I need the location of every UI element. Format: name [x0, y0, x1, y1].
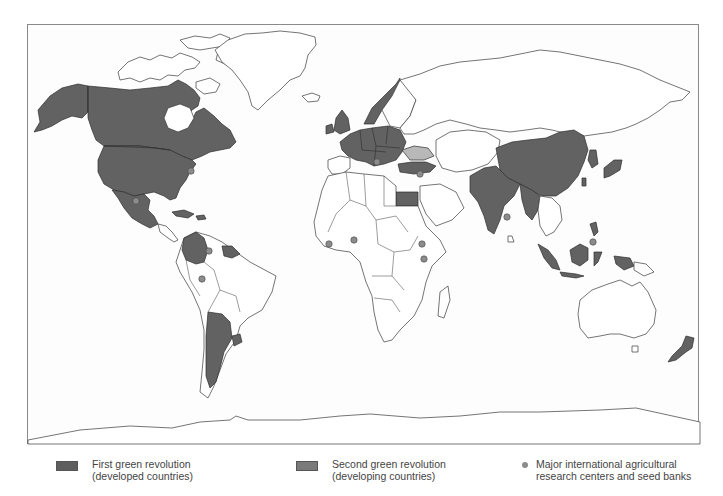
research-center-ethiopia: [419, 241, 425, 247]
legend-label-line1: Second green revolution: [332, 458, 446, 470]
research-center-usa: [188, 168, 194, 174]
ireland: [326, 124, 334, 134]
research-center-liberia: [326, 241, 332, 247]
russia: [400, 50, 690, 136]
sumatra: [538, 244, 560, 270]
legend-item-research-centers: Major international agricultural researc…: [522, 458, 691, 482]
research-center-mexico: [133, 198, 139, 204]
legend-label-line1: First green revolution: [92, 458, 193, 470]
antarctica: [28, 408, 700, 444]
middle-east-egypt: [396, 192, 418, 206]
united-kingdom: [334, 110, 350, 134]
legend-label: Major international agricultural researc…: [536, 458, 691, 482]
legend-label-line2: (developing countries): [332, 470, 446, 482]
new-zealand: [668, 336, 694, 362]
cuba: [172, 210, 194, 218]
iberia: [328, 156, 350, 174]
java: [560, 272, 584, 278]
legend-label-line2: research centers and seed banks: [536, 470, 691, 482]
legend-label-line2: (developed countries): [92, 470, 193, 482]
new-guinea-west: [614, 256, 634, 270]
world-map: [0, 0, 723, 496]
research-center-dot-icon: [522, 462, 528, 468]
iceland: [302, 93, 320, 102]
madagascar: [438, 286, 450, 318]
central-america: [158, 224, 178, 242]
ukraine: [402, 146, 434, 160]
tasmania: [632, 346, 638, 352]
arabia: [420, 184, 464, 226]
research-center-philippines: [590, 239, 596, 245]
greenland: [215, 31, 316, 110]
alaska: [34, 84, 88, 132]
research-center-peru: [199, 276, 205, 282]
new-guinea-east: [634, 262, 654, 276]
mexico: [112, 190, 158, 228]
sulawesi: [594, 252, 602, 266]
research-center-italy: [374, 159, 380, 165]
legend: First green revolution (developed countr…: [0, 458, 723, 496]
uruguay: [232, 334, 242, 346]
central-asia: [436, 130, 500, 172]
legend-item-second-revolution: Second green revolution (developing coun…: [296, 458, 446, 482]
research-center-nigeria: [351, 237, 357, 243]
legend-label-line1: Major international agricultural: [536, 458, 691, 470]
second-revolution-swatch: [296, 461, 318, 471]
caribbean-islands: [196, 215, 206, 220]
australia: [578, 280, 656, 338]
korea: [588, 150, 598, 168]
taiwan: [582, 178, 586, 186]
research-center-syria: [417, 171, 423, 177]
borneo: [570, 244, 588, 266]
research-center-colombia: [206, 248, 212, 254]
legend-label: Second green revolution (developing coun…: [332, 458, 446, 482]
sri-lanka: [508, 236, 514, 242]
japan: [604, 160, 622, 178]
legend-label: First green revolution (developed countr…: [92, 458, 193, 482]
legend-item-first-revolution: First green revolution (developed countr…: [56, 458, 193, 482]
indochina: [538, 196, 562, 236]
research-center-kenya: [421, 256, 427, 262]
philippines: [590, 222, 598, 236]
first-revolution-swatch: [56, 461, 78, 471]
research-center-india: [504, 214, 510, 220]
